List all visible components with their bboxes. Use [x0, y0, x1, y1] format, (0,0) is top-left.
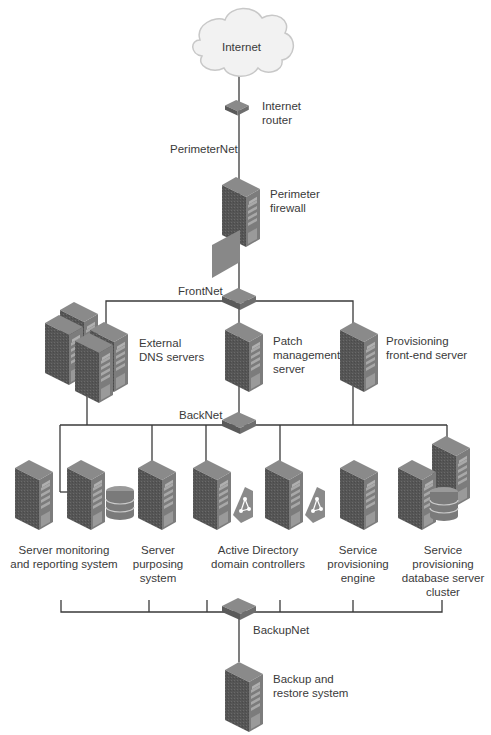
- frontnet-label: FrontNet: [178, 284, 223, 298]
- backupnet-switch-icon: [222, 598, 256, 620]
- perimeter-firewall-icon: [212, 177, 260, 278]
- internet-router-icon: [225, 100, 249, 115]
- perimeter-firewall-label: Perimeter firewall: [270, 187, 320, 215]
- backup-restore-system-icon: [225, 662, 263, 732]
- server-purposing-icon: [138, 460, 176, 530]
- service-provisioning-db-label: Service provisioning database server clu…: [402, 543, 484, 599]
- server-monitoring-label: Server monitoring and reporting system: [10, 543, 117, 571]
- backnet-label: BackNet: [179, 408, 222, 422]
- server-monitoring-icon: [15, 460, 134, 530]
- backupnet-label: BackupNet: [253, 623, 309, 637]
- active-directory-dc-icon: [193, 460, 325, 530]
- frontnet-switch-icon: [222, 288, 256, 310]
- external-dns-label: External DNS servers: [139, 336, 204, 364]
- provisioning-frontend-label: Provisioning front-end server: [386, 334, 467, 362]
- backup-restore-label: Backup and restore system: [273, 672, 348, 700]
- server-purposing-label: Server purposing system: [133, 543, 184, 585]
- network-diagram: [0, 0, 491, 735]
- internet-label: Internet: [222, 40, 261, 54]
- patch-management-label: Patch management server: [273, 334, 340, 376]
- internet-router-label: Internet router: [262, 99, 301, 127]
- external-dns-servers-icon: [45, 302, 128, 403]
- service-provisioning-engine-icon: [340, 460, 378, 530]
- service-provisioning-engine-label: Service provisioning engine: [327, 543, 388, 585]
- perimeternet-label: PerimeterNet: [170, 142, 238, 156]
- active-directory-label: Active Directory domain controllers: [211, 543, 305, 571]
- provisioning-frontend-server-icon: [340, 322, 378, 392]
- service-provisioning-db-cluster-icon: [398, 436, 470, 530]
- patch-management-server-icon: [225, 322, 263, 392]
- backnet-switch-icon: [222, 412, 256, 434]
